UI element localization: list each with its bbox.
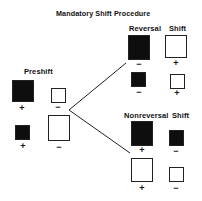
line-to-reversal [69,63,126,110]
reversal-small-white-square [170,74,185,89]
reversal-shift-label: Shift [169,24,186,33]
preshift-small-black-square [15,125,30,140]
preshift-large-white-square [48,115,70,141]
nonreversal-large-black-square [131,121,153,146]
preshift-sign-2: − [53,103,63,112]
reversal-label: Reversal [129,24,161,33]
preshift-sign-3: + [18,142,28,151]
reversal-sign-4: + [172,89,182,98]
reversal-sign-1: − [134,60,144,69]
nonreversal-sign-3: + [137,184,147,193]
nonreversal-label: Nonreversal [124,111,168,120]
preshift-sign-4: − [54,143,64,152]
reversal-sign-2: + [171,59,181,68]
reversal-large-black-square [128,35,150,60]
line-to-nonreversal [69,110,130,153]
nonreversal-shift-label: Shift [172,111,189,120]
preshift-label: Preshift [24,67,53,76]
nonreversal-sign-4: − [171,184,181,193]
reversal-sign-3: − [134,88,144,97]
reversal-small-black-square [131,72,146,87]
preshift-large-black-square [12,80,34,102]
nonreversal-sign-2: − [171,147,181,156]
diagram-canvas: Mandatory Shift Procedure Preshift + − +… [0,0,202,201]
nonreversal-small-white-square [169,167,184,182]
nonreversal-large-white-square [131,158,153,182]
preshift-small-white-square [51,88,66,103]
nonreversal-sign-1: + [137,146,147,155]
reversal-large-white-square [165,35,187,58]
preshift-sign-1: + [17,104,27,113]
nonreversal-small-black-square [169,130,184,146]
